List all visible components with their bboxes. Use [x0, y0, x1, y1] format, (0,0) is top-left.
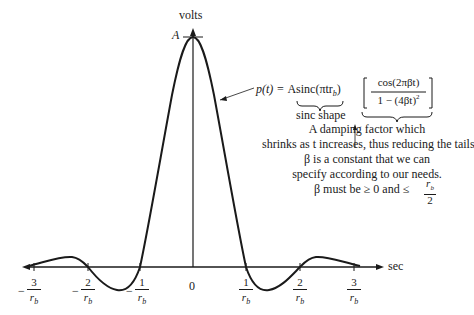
tick-neg3-sign: −: [18, 284, 25, 299]
rb-over-2: rb 2: [424, 178, 436, 206]
tick-neg2-sign: −: [72, 284, 79, 299]
x-axis-arrow-icon: [376, 264, 384, 270]
note-line-constraint: β must be ≥ 0 and ≤ rb 2: [262, 182, 472, 208]
tick-pos1: 1rb: [239, 276, 253, 308]
tick-num: 3: [27, 276, 41, 288]
pointer-arrow-icon: [220, 96, 227, 101]
tick-den: rb: [135, 291, 149, 308]
y-axis-arrow-icon: [190, 28, 196, 36]
damping-note: A damping factor which shrinks as t incr…: [262, 122, 472, 208]
tick-num: 2: [81, 276, 95, 288]
damp-left-bracket: [364, 78, 367, 108]
tick-num: 1: [135, 276, 149, 288]
tick-pos3: 3rb: [347, 276, 361, 308]
sinc-term: Asinc(πtrb): [287, 82, 340, 96]
tick-pos2: 2rb: [293, 276, 307, 308]
tick-num: 3: [347, 276, 361, 288]
y-axis-label: volts: [179, 8, 202, 23]
note-line: shrinks as t increases, thus reducing th…: [262, 137, 472, 152]
equation-main: p(t) = Asinc(πtrb): [256, 82, 341, 98]
tick-neg2: 2rb: [81, 276, 95, 308]
tick-neg1-sign: −: [126, 284, 133, 299]
tick-den: rb: [293, 291, 307, 308]
damp-underbrace: [362, 112, 432, 122]
note-line: β is a constant that we can: [262, 152, 472, 167]
tick-neg1: 1rb: [135, 276, 149, 308]
tick-den: rb: [239, 291, 253, 308]
tick-neg3: 3rb: [27, 276, 41, 308]
damp-right-bracket: [429, 78, 432, 108]
tick-num: 1: [239, 276, 253, 288]
tick-den: rb: [347, 291, 361, 308]
damp-denominator: 1 − (4βt)2: [371, 93, 426, 106]
tick-den: rb: [81, 291, 95, 308]
origin-label: 0: [189, 279, 195, 294]
sinc-caption: sinc shape: [296, 108, 346, 123]
damp-numerator: cos(2πβt): [371, 76, 426, 88]
tick-num: 2: [293, 276, 307, 288]
tick-den: rb: [27, 291, 41, 308]
note-line: specify according to our needs.: [262, 167, 472, 182]
equation-lhs: p(t) =: [256, 82, 287, 96]
note-line: A damping factor which: [262, 122, 472, 137]
peak-label: A: [172, 28, 179, 43]
x-axis-label: sec: [388, 259, 403, 274]
